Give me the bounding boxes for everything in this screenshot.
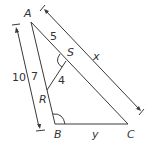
label-point-S: S [67, 46, 74, 59]
triangle-diagram: A B C S R 5 7 4 10 x y [0, 0, 158, 147]
arrowhead-up-icon [15, 27, 19, 33]
label-AR: 7 [31, 70, 38, 83]
label-point-R: R [39, 93, 47, 106]
tick-top-AB [12, 24, 20, 25]
label-AB: 10 [12, 71, 26, 84]
label-AS: 5 [50, 30, 57, 43]
arrowhead-down-icon [37, 124, 41, 129]
tick-top-AC [40, 5, 45, 11]
angle-arc-S [57, 54, 62, 67]
label-AC: x [92, 50, 100, 63]
label-point-C: C [127, 128, 135, 141]
label-BC: y [91, 128, 99, 141]
label-point-B: B [54, 128, 62, 141]
label-point-A: A [23, 7, 32, 20]
tick-bottom-AB [36, 130, 45, 131]
side-AC [31, 22, 128, 124]
label-RS: 4 [58, 74, 65, 87]
